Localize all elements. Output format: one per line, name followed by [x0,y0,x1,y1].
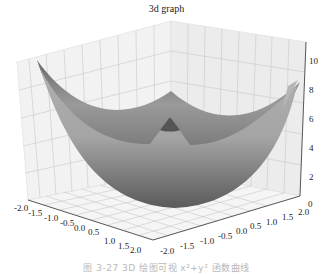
svg-text:4: 4 [309,143,314,153]
svg-text:-1.5: -1.5 [28,208,43,218]
svg-text:0.5: 0.5 [88,227,100,237]
surface-plot: 10 8 6 4 2 0 -2.0 -1.5 -1.0 -0.5 0.0 0.5… [0,0,333,274]
svg-text:-0.5: -0.5 [218,231,233,241]
svg-text:8: 8 [309,85,314,95]
svg-text:2.0: 2.0 [298,207,310,217]
svg-text:0.0: 0.0 [74,223,86,233]
svg-text:10: 10 [309,56,319,66]
svg-text:0.0: 0.0 [236,226,248,236]
svg-text:0.5: 0.5 [250,221,262,231]
svg-text:6: 6 [309,114,314,124]
svg-text:1.5: 1.5 [282,212,294,222]
figure-caption: 图 3-27 3D 绘图可视 x²+y² 函数曲线 [0,261,333,274]
svg-text:-2.0: -2.0 [160,246,175,256]
svg-text:-1.0: -1.0 [200,236,215,246]
svg-text:-2.0: -2.0 [14,203,29,213]
svg-text:-0.5: -0.5 [60,218,75,228]
svg-text:1.0: 1.0 [266,217,278,227]
svg-text:1.5: 1.5 [118,241,130,251]
svg-text:-1.0: -1.0 [44,213,59,223]
svg-text:2: 2 [309,172,314,182]
svg-text:2.0: 2.0 [130,245,142,255]
svg-text:-1.5: -1.5 [180,241,195,251]
svg-text:1.0: 1.0 [104,236,116,246]
